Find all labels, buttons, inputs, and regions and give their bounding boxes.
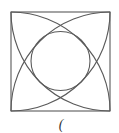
inner-circle [31, 32, 90, 91]
geometry-figure [0, 0, 119, 133]
arc-bottom-left [11, 12, 110, 111]
figure-caption: ( [56, 117, 66, 133]
outer-square [11, 12, 110, 111]
arc-bottom-right [11, 12, 110, 111]
arc-top-left [11, 12, 110, 111]
arc-top-right [11, 12, 110, 111]
